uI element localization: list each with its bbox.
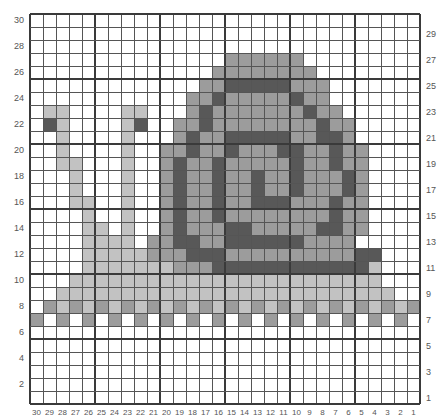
column-label: 25 <box>95 408 108 417</box>
pattern-cell-medium-gray <box>394 313 407 326</box>
pattern-cell-medium-gray <box>303 248 316 261</box>
pattern-cell-medium-gray <box>355 300 368 313</box>
column-label: 24 <box>108 408 121 417</box>
pattern-cell-medium-gray <box>134 313 147 326</box>
row-label-right: 3 <box>426 367 442 377</box>
pattern-cell-dark-gray <box>329 222 342 235</box>
pattern-cell-medium-gray <box>264 53 277 66</box>
pattern-cell-light-gray <box>212 287 225 300</box>
pattern-cell-light-gray <box>368 287 381 300</box>
row-label-left: 22 <box>10 119 24 129</box>
pattern-cell-medium-gray <box>316 313 329 326</box>
pattern-cell-medium-gray <box>238 209 251 222</box>
pattern-cell-medium-gray <box>238 118 251 131</box>
pattern-cell-medium-gray <box>303 144 316 157</box>
pattern-cell-medium-gray <box>264 157 277 170</box>
pattern-cell-dark-gray <box>238 261 251 274</box>
pattern-cell-medium-gray <box>160 170 173 183</box>
pattern-cell-dark-gray <box>290 157 303 170</box>
row-label-right: 29 <box>426 29 442 39</box>
pattern-cell-medium-gray <box>329 300 342 313</box>
pattern-cell-dark-gray <box>342 170 355 183</box>
pattern-cell-medium-gray <box>303 235 316 248</box>
pattern-cell-light-gray <box>134 248 147 261</box>
pattern-cell-medium-gray <box>251 53 264 66</box>
pattern-cell-dark-gray <box>186 131 199 144</box>
pattern-cell-medium-gray <box>160 235 173 248</box>
pattern-cell-medium-gray <box>43 300 56 313</box>
pattern-cell-medium-gray <box>160 313 173 326</box>
pattern-cell-light-gray <box>212 300 225 313</box>
pattern-cell-medium-gray <box>238 196 251 209</box>
pattern-cell-dark-gray <box>212 170 225 183</box>
pattern-cell-dark-gray <box>212 209 225 222</box>
row-label-left: 24 <box>10 93 24 103</box>
pattern-cell-dark-gray <box>303 261 316 274</box>
pattern-cell-light-gray <box>69 183 82 196</box>
pattern-cell-medium-gray <box>238 92 251 105</box>
pattern-cell-medium-gray <box>264 118 277 131</box>
pattern-cell-dark-gray <box>173 157 186 170</box>
pattern-cell-dark-gray <box>264 79 277 92</box>
pattern-cell-medium-gray <box>277 183 290 196</box>
pattern-cell-medium-gray <box>225 196 238 209</box>
row-label-left: 12 <box>10 249 24 259</box>
pattern-cell-dark-gray <box>316 131 329 144</box>
pattern-cell-light-gray <box>121 235 134 248</box>
pattern-cell-medium-gray <box>212 66 225 79</box>
column-label: 7 <box>329 408 342 417</box>
pattern-cell-light-gray <box>121 261 134 274</box>
pattern-cell-light-gray <box>108 274 121 287</box>
pattern-cell-dark-gray <box>251 196 264 209</box>
row-label-left: 30 <box>10 15 24 25</box>
pattern-cell-medium-gray <box>199 261 212 274</box>
pattern-cell-dark-gray <box>277 196 290 209</box>
pattern-cell-dark-gray <box>173 209 186 222</box>
pattern-cell-dark-gray <box>329 196 342 209</box>
row-label-right: 7 <box>426 315 442 325</box>
pattern-cell-medium-gray <box>355 144 368 157</box>
pattern-cell-dark-gray <box>212 183 225 196</box>
pattern-cell-medium-gray <box>199 196 212 209</box>
pattern-cell-light-gray <box>108 248 121 261</box>
pattern-cell-medium-gray <box>251 209 264 222</box>
pattern-cell-light-gray <box>95 287 108 300</box>
pattern-cell-light-gray <box>355 274 368 287</box>
pattern-cell-medium-gray <box>186 313 199 326</box>
pattern-cell-light-gray <box>251 274 264 287</box>
pattern-cell-medium-gray <box>277 92 290 105</box>
pattern-cell-dark-gray <box>173 196 186 209</box>
pattern-cell-light-gray <box>147 261 160 274</box>
pattern-cell-medium-gray <box>303 131 316 144</box>
pattern-cell-medium-gray <box>238 144 251 157</box>
pattern-cell-light-gray <box>303 274 316 287</box>
grid-line-horizontal <box>30 273 420 275</box>
pattern-cell-medium-gray <box>212 313 225 326</box>
grid-line-horizontal <box>30 131 420 132</box>
column-label: 12 <box>264 408 277 417</box>
pattern-cell-light-gray <box>290 287 303 300</box>
pattern-cell-medium-gray <box>69 300 82 313</box>
pattern-cell-light-gray <box>121 222 134 235</box>
pattern-cell-medium-gray <box>121 300 134 313</box>
grid-line-horizontal <box>30 183 420 184</box>
pattern-cell-medium-gray <box>251 144 264 157</box>
grid-line-horizontal <box>30 66 420 67</box>
pattern-cell-medium-gray <box>355 209 368 222</box>
pattern-cell-dark-gray <box>329 209 342 222</box>
grid-line-horizontal <box>30 338 420 340</box>
pattern-cell-light-gray <box>82 300 95 313</box>
pattern-cell-medium-gray <box>56 313 69 326</box>
row-label-left: 20 <box>10 145 24 155</box>
pattern-cell-light-gray <box>43 105 56 118</box>
pattern-cell-light-gray <box>316 287 329 300</box>
column-label: 2 <box>394 408 407 417</box>
pattern-cell-dark-gray <box>277 79 290 92</box>
pattern-cell-dark-gray <box>173 235 186 248</box>
pattern-cell-medium-gray <box>303 66 316 79</box>
pattern-cell-medium-gray <box>212 105 225 118</box>
grid-line-horizontal <box>30 143 420 145</box>
pattern-cell-light-gray <box>225 274 238 287</box>
pattern-cell-medium-gray <box>264 144 277 157</box>
pattern-cell-light-gray <box>121 248 134 261</box>
